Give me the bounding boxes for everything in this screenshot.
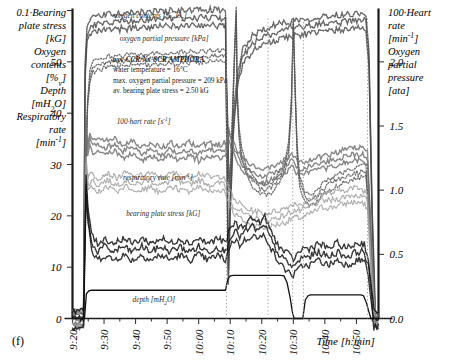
x-ticklabel: 9:40 <box>130 329 142 350</box>
curve-label-6: depth [mH2O] <box>132 295 175 306</box>
x-ticklabel: 9:20 <box>67 329 79 350</box>
left-axis-title-line-11: [min-1] <box>36 135 66 149</box>
chart-svg: 010203040500.00.51.01.52.09:209:309:409:… <box>0 0 459 363</box>
left-axis-title-line-3: [kG] <box>46 33 66 44</box>
y-ticklabel-right: 0.5 <box>390 248 404 260</box>
right-axis-title-line-5: partial <box>387 59 417 70</box>
panel-label: (f) <box>12 334 24 348</box>
left-axis-title-line-9: Respiratory <box>15 111 66 122</box>
x-ticklabel: 10:30 <box>287 329 299 355</box>
y-ticklabel-right: 0.0 <box>390 313 404 325</box>
left-axis-title-line-2: plate stress <box>18 20 66 31</box>
annotation-line-3: max. oxygen partial pressure = 209 kPa <box>113 77 228 85</box>
x-ticklabel: 10:20 <box>256 329 268 355</box>
right-axis-title-line-6: pressure <box>387 72 424 83</box>
x-ticklabel: 9:50 <box>161 329 173 350</box>
y-ticklabel-left: 20 <box>51 210 63 222</box>
y-ticklabel-left: 10 <box>51 261 63 273</box>
right-axis-title-line-3: [min-1] <box>388 31 418 45</box>
curve-label-1: oxygen contents [%v O2] <box>114 11 188 22</box>
y-ticklabel-left: 30 <box>50 159 63 171</box>
y-ticklabel-left: 0 <box>56 313 62 325</box>
figure-panel: 010203040500.00.51.01.52.09:209:309:409:… <box>0 0 459 363</box>
x-ticklabel: 9:30 <box>98 329 110 350</box>
right-axis-title-line-4: Oxygen <box>388 46 420 57</box>
x-ticklabel: 10:10 <box>224 329 236 355</box>
x-axis-label: Time [h:min] <box>317 335 375 347</box>
curve-label-5: bearing plate stress [kG] <box>126 209 200 218</box>
curve-label-4: respiratory rate [min-1] <box>123 172 193 182</box>
left-axis-title-line-10: rate <box>49 124 66 135</box>
x-ticklabel: 10:00 <box>193 329 205 355</box>
curve-label-2: oxygen partial pressure [kPa] <box>120 34 209 43</box>
series-6 <box>73 275 379 318</box>
y-ticklabel-right: 1.5 <box>390 120 404 132</box>
right-axis-title-line-1: 100·Heart <box>388 7 432 18</box>
right-axis-title-line-2: rate <box>388 20 405 31</box>
left-axis-title-line-7: Depth <box>39 85 66 96</box>
left-axis-title-line-5: contents <box>31 59 66 70</box>
annotation-line-1: oxy-CCR/Nx-SCR AMPHORA <box>113 56 205 64</box>
annotation-line-4: av. bearing plate stress = 2.50 kG <box>113 87 209 95</box>
curve-label-3: 100·hart rate [s-1] <box>117 116 171 126</box>
right-axis-title-line-7: [ata] <box>388 85 410 96</box>
left-axis-title-line-1: 0.1·Bearing <box>16 7 66 18</box>
left-axis-title-line-4: Oxygen <box>34 46 66 57</box>
annotation-line-2: water temperature = 16°C <box>113 66 188 74</box>
y-ticklabel-right: 1.0 <box>390 184 404 196</box>
